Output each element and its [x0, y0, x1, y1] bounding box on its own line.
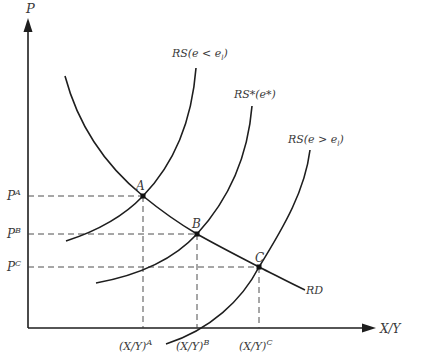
- price-c-label: PC: [6, 259, 21, 274]
- curve-rs-star-label: RS*(e*): [233, 88, 276, 101]
- point-a-label: A: [135, 179, 145, 193]
- price-a-label: PA: [6, 188, 21, 203]
- point-a-marker: [141, 194, 146, 199]
- curve-rs-high: [166, 150, 310, 344]
- y-axis-label: P: [25, 1, 35, 16]
- qty-a-label: (X/Y)A: [119, 338, 152, 353]
- point-b-label: B: [191, 217, 201, 231]
- qty-b-label: (X/Y)B: [176, 338, 209, 353]
- qty-c-label: (X/Y)C: [239, 338, 273, 353]
- point-c-marker: [257, 265, 262, 270]
- point-c-label: C: [255, 251, 264, 265]
- point-b-marker: [195, 232, 200, 237]
- curve-rd-label: RD: [305, 284, 323, 297]
- curve-rd: [65, 76, 305, 290]
- y-axis-arrow-icon: [24, 18, 33, 32]
- x-axis-label: X/Y: [379, 322, 402, 336]
- x-axis-arrow-icon: [362, 324, 376, 333]
- curve-rs-low: [66, 68, 196, 241]
- price-b-label: PB: [6, 226, 21, 241]
- curve-rs-low-label: RS(e < el): [171, 47, 228, 62]
- curve-rs-star: [96, 106, 252, 283]
- curve-rs-high-label: RS(e > el): [287, 133, 344, 148]
- diagram-canvas: P X/Y A B C PA PB PC (X/Y)A (X/Y)B (X/Y)…: [0, 0, 421, 363]
